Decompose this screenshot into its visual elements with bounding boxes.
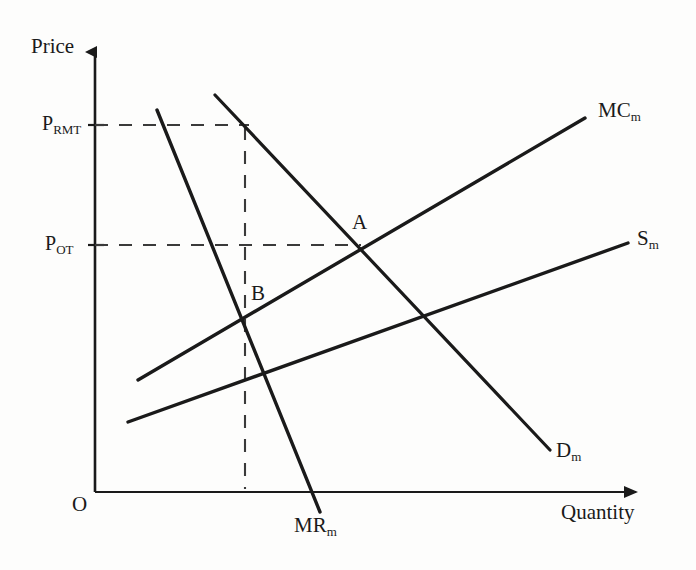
price-label-p-rmt: PRMT (42, 113, 81, 133)
curve-mr-m (157, 110, 320, 512)
y-axis-title: Price (31, 36, 74, 57)
curve-label-d-m-main: D (556, 438, 571, 462)
curve-label-mr-m-main: MR (294, 513, 327, 537)
curve-label-s-m-sub: m (649, 237, 659, 252)
curve-label-d-m-sub: m (571, 449, 581, 464)
curve-label-s-m: Sm (637, 228, 659, 249)
price-label-p-ot: POT (45, 233, 73, 253)
economics-diagram: Price Quantity O PRMT POT MCm Sm Dm MRm … (0, 0, 696, 570)
point-label-b: B (251, 283, 265, 304)
price-label-p-ot-sub: OT (56, 242, 73, 257)
x-axis-title: Quantity (561, 502, 635, 523)
curve-label-mc-m: MCm (598, 100, 641, 121)
diagram-canvas (0, 0, 696, 570)
curve-label-mr-m-sub: m (327, 524, 337, 539)
price-label-p-ot-main: P (45, 232, 56, 254)
price-label-p-rmt-sub: RMT (53, 122, 81, 137)
curve-label-d-m: Dm (556, 440, 581, 461)
curve-label-mc-m-sub: m (631, 109, 641, 124)
point-label-a: A (352, 212, 367, 233)
curve-label-s-m-main: S (637, 226, 649, 250)
curve-label-mc-m-main: MC (598, 98, 631, 122)
curve-label-mr-m: MRm (294, 515, 337, 536)
curve-d-m (215, 95, 550, 450)
price-label-p-rmt-main: P (42, 112, 53, 134)
origin-label: O (72, 494, 87, 515)
